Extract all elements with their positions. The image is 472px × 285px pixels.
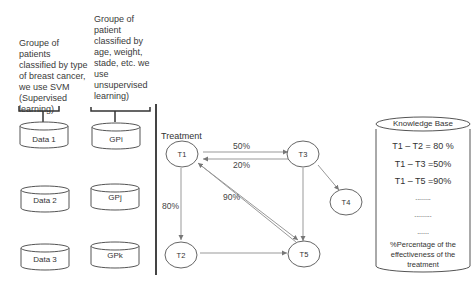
brace-unsupervised	[91, 107, 150, 122]
kb-entry: T1 – T2 = 80 %	[376, 141, 470, 151]
knowledge-base: Knowledge Base T1 – T2 = 80 % T1 – T3 =5…	[376, 114, 470, 279]
edge-label-t3-t1: 20%	[233, 160, 250, 170]
kb-footer-line: treatment	[376, 260, 470, 270]
node-label-t3: T3	[299, 150, 308, 159]
node-label-t2: T2	[177, 251, 186, 260]
kb-ellipsis: .........	[376, 211, 470, 218]
cylinder-label: GPj	[91, 193, 139, 202]
kb-ellipsis: ......	[376, 228, 470, 235]
cylinder-label: Data 3	[21, 255, 69, 264]
edge-label-t1-t3: 50%	[233, 141, 250, 151]
cylinder-label: GPk	[91, 251, 139, 260]
cylinder-label: Data 2	[21, 196, 69, 205]
node-label-t5: T5	[300, 250, 309, 259]
node-label-t4: T4	[342, 198, 351, 207]
cylinder-label: Data 1	[20, 135, 68, 144]
node-label-t1: T1	[178, 150, 187, 159]
cylinder-label: GPi	[92, 135, 140, 144]
graph-title: Treatment	[161, 131, 202, 141]
kb-footer: %Percentage of the effectiveness of the …	[376, 240, 470, 270]
kb-footer-line: effectiveness of the	[376, 250, 470, 260]
brace-supervised	[19, 106, 59, 124]
kb-entry: T1 – T3 =50%	[376, 159, 470, 169]
kb-ellipsis: ........	[376, 194, 470, 201]
edge-label-t1-t5: 90%	[223, 192, 240, 202]
kb-footer-line: %Percentage of the	[376, 240, 470, 250]
kb-entry: T1 – T5 =90%	[376, 176, 470, 186]
edge-label-t1-t2: 80%	[162, 201, 179, 211]
kb-title: Knowledge Base	[376, 119, 470, 128]
edge-t3-t4	[318, 165, 339, 190]
edge-t5-t1	[198, 163, 296, 242]
